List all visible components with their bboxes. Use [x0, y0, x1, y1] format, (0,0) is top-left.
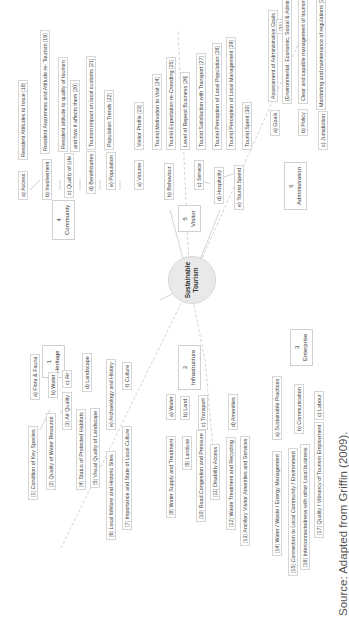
leaf-3: [3] Air Quality [62, 392, 72, 430]
center-node: Sustainable Tourism [168, 256, 216, 304]
sub-transport: c) Transport [198, 395, 208, 430]
sub-behaviour: b) Behaviour [164, 163, 174, 200]
leaf-27: Tourist Satisfaction with Transport [27] [196, 53, 206, 150]
sub-involvement: b) Involvement [42, 159, 52, 200]
sub-access: a) Access [18, 171, 28, 200]
leaf-20a: Resident attitude to quality of tourism [58, 57, 68, 152]
leaf-19: Resident Awareness and Attitude re- Tour… [40, 30, 50, 154]
leaf-26: Level of Repeat Business [26] [180, 72, 190, 150]
category-label: Visitor [189, 210, 197, 227]
leaf-24: Tourist Motivation to Visit [24] [152, 74, 162, 150]
sub-service: c) Service [194, 160, 204, 190]
category-num: 3 [293, 334, 301, 361]
center-label-1: Sustainable [184, 262, 192, 298]
leaf-8: [8] Water Supply and Treatment [166, 436, 176, 518]
category-label: Community [63, 205, 71, 235]
sub-volume: a) Volume [134, 160, 144, 190]
leaf-6: [6] Local folklore and Historic Sites [106, 451, 116, 540]
sub-water: a) Water [166, 394, 176, 420]
sub-air: c) Air [62, 370, 72, 388]
leaf-25: Tourist Expectation re-Crowding [25] [166, 57, 176, 150]
sub-sustainable-practices: a) Sustainable Practices [272, 376, 282, 440]
sub-water: b) Water [48, 372, 58, 398]
sub-beneficiaries: d) Beneficiaries [86, 151, 96, 194]
leaf-20b: and how it affects them [20] [70, 80, 80, 152]
category-num: 2 [181, 350, 189, 385]
sub-jurisdiction: c) Jurisdiction [318, 111, 328, 150]
category-num: 6 [287, 167, 295, 205]
center-label-2: Tourism [192, 267, 200, 292]
leaf-29: Tourist Perception of Local Management [… [226, 37, 236, 150]
sub-policy: b) Policy [298, 109, 308, 136]
category-enterprise: 3 Enterprise [290, 329, 313, 366]
leaf-13: [13] Ancillary Visitor Amenities and Ser… [240, 436, 250, 546]
category-label: Heritage [53, 350, 61, 373]
leaf-15: [15] Connection to Local Community / Env… [288, 448, 298, 576]
category-num: 5 [181, 210, 189, 227]
leaf-14: [14] Water / Waste / Energy Management [272, 451, 282, 556]
leaf-10: [10] Road Congestion and Pressure [196, 430, 206, 522]
sub-landscape: d) Landscape [82, 353, 92, 392]
leaf-17: [17] Quality / Vibrancy of Tourism Emplo… [314, 422, 324, 538]
sub-communication: b) Communication [294, 384, 304, 434]
leaf-4: [4] Status of Protected Habitats [76, 409, 86, 490]
leaf-16: [16] Interconnectedness with other Local… [300, 444, 310, 570]
leaf-2: [2] Quality of Water Resource [46, 413, 56, 490]
sub-labour: c) Labour [314, 391, 324, 420]
sub-hospitality: d) Hospitality [214, 167, 224, 204]
sub-quality-of-life: c) Quality of Life [64, 153, 74, 198]
sub-tourist-spend: e) Tourist Spend [234, 165, 244, 210]
leaf-21: Tourism impact on local customs [21] [86, 56, 96, 150]
leaf-5: [5] Visual Quality of Landscape [90, 408, 100, 488]
leaf-30: Tourist Spent [30] [242, 102, 252, 150]
category-visitor: 5 Visitor [178, 205, 201, 232]
category-administration: 6 Administration [284, 162, 307, 210]
sub-population: e) Population [106, 152, 116, 190]
leaf-22: Population Trends [22] [104, 90, 114, 150]
leaf-1: [1] Condition of Key Species [28, 426, 38, 500]
category-label: Administration [295, 167, 303, 205]
sub-amenities: d) Amenities [228, 394, 238, 430]
leaf-12: [12] Waste Treatment and Recycling [226, 437, 236, 530]
category-label: Enterprise [301, 334, 309, 361]
sub-culture: f) Culture [122, 362, 132, 390]
leaf-9: [9] Landuse [182, 436, 192, 470]
leaf-23: Visitor Profile [23] [134, 102, 144, 150]
sub-flora-fauna: a) Flora & Fauna [30, 354, 40, 400]
source-caption: Source: Adapted from Griffin (2009). [337, 431, 349, 616]
sub-land: b) Land [180, 396, 190, 420]
sub-archaeology: e) Archaeology and History [106, 359, 116, 430]
leaf-7: [7] Importance and State of Local Cultur… [122, 426, 132, 530]
leaf-33: Monitoring and maintenance of regulation… [316, 0, 326, 110]
category-num: 1 [45, 350, 53, 373]
leaf-32: Clear and capable management of tourism … [298, 0, 308, 104]
category-label: Infrastructure [189, 350, 197, 385]
category-community: 4 Community [52, 200, 75, 240]
category-infrastructure: 2 Infrastructure [178, 345, 201, 390]
category-num: 4 [55, 205, 63, 235]
leaf-18: Resident Attitudes to Issue [18] [18, 80, 28, 160]
leaf-31b: (Environmental, Economic, Social & Admin… [282, 0, 292, 104]
leaf-11: [11] Disability Access [210, 444, 220, 500]
leaf-28: Tourist Perception of Local Population [… [212, 43, 222, 150]
sub-goals: a) Goals [270, 110, 280, 136]
